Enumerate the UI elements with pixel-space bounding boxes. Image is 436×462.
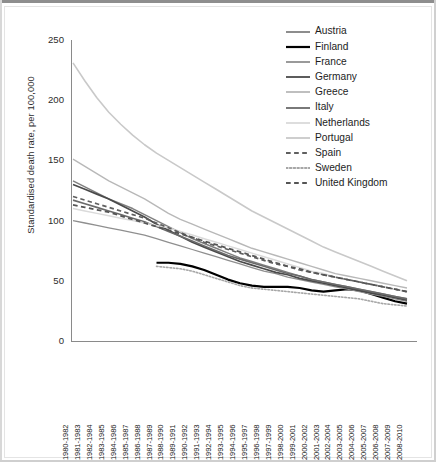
x-tick-label: 1993-1995 <box>216 425 225 460</box>
x-tick-label: 1991-1993 <box>192 425 201 460</box>
legend-line-icon <box>286 86 310 98</box>
x-tick-label: 1995-1997 <box>240 425 249 460</box>
x-tick-label: 1985-1987 <box>121 425 130 460</box>
x-tick-label: 1994-1996 <box>228 425 237 460</box>
chart-page: Standardised death rate, per 100,000 050… <box>0 0 436 462</box>
legend-item[interactable]: Portugal <box>286 130 432 145</box>
legend-line-icon <box>286 26 310 38</box>
legend-line-icon <box>286 71 310 83</box>
x-tick-label: 2006-2008 <box>371 425 380 460</box>
x-tick-label: 1989-1991 <box>168 425 177 460</box>
legend-item[interactable]: Greece <box>286 85 432 100</box>
legend-line-icon <box>286 162 310 174</box>
x-tick-label: 2008-2010 <box>395 425 404 460</box>
legend-item[interactable]: United Kingdom <box>286 176 432 191</box>
x-tick-label: 1982-1984 <box>85 425 94 460</box>
x-tick-label: 2000-2002 <box>300 425 309 460</box>
y-tick-label: 100 <box>32 216 64 226</box>
y-tick-label: 0 <box>32 336 64 346</box>
y-tick-label: 250 <box>32 35 64 45</box>
legend-item[interactable]: Sweden <box>286 161 432 176</box>
legend-line-icon <box>286 56 310 68</box>
y-tick-label: 50 <box>32 276 64 286</box>
chart-legend: AustriaFinlandFranceGermanyGreeceItalyNe… <box>286 24 432 191</box>
x-tick-label: 1988-1990 <box>156 425 165 460</box>
x-tick-label: 1980-1982 <box>61 425 70 460</box>
y-axis-tick-labels: 050100150200250 <box>32 0 64 462</box>
y-tick-label: 150 <box>32 155 64 165</box>
legend-label: Sweden <box>315 163 352 173</box>
legend-label: Austria <box>315 26 347 36</box>
legend-label: Spain <box>315 148 341 158</box>
legend-label: Italy <box>315 102 334 112</box>
legend-item[interactable]: France <box>286 54 432 69</box>
page-frame-left <box>0 0 2 462</box>
x-tick-label: 1999-2001 <box>288 425 297 460</box>
x-tick-label: 2001-2003 <box>312 425 321 460</box>
series-line <box>73 209 407 292</box>
x-tick-label: 2005-2007 <box>359 425 368 460</box>
x-tick-label: 2007-2009 <box>383 425 392 460</box>
x-tick-label: 2004-2006 <box>347 425 356 460</box>
legend-label: Germany <box>315 72 357 82</box>
legend-label: France <box>315 57 347 67</box>
legend-item[interactable]: Spain <box>286 146 432 161</box>
x-tick-label: 1996-1998 <box>252 425 261 460</box>
legend-label: Greece <box>315 87 348 97</box>
legend-item[interactable]: Finland <box>286 39 432 54</box>
legend-line-icon <box>286 177 310 189</box>
legend-label: United Kingdom <box>315 178 388 188</box>
legend-line-icon <box>286 41 310 53</box>
legend-line-icon <box>286 102 310 114</box>
x-tick-label: 1987-1989 <box>145 425 154 460</box>
x-tick-label: 1998-2000 <box>276 425 285 460</box>
x-tick-label: 1983-1985 <box>97 425 106 460</box>
legend-item[interactable]: Germany <box>286 70 432 85</box>
x-tick-label: 1981-1983 <box>73 425 82 460</box>
legend-item[interactable]: Italy <box>286 100 432 115</box>
x-tick-label: 2003-2005 <box>335 425 344 460</box>
legend-line-icon <box>286 117 310 129</box>
legend-label: Finland <box>315 42 348 52</box>
x-tick-label: 1984-1986 <box>109 425 118 460</box>
x-tick-label: 1986-1988 <box>133 425 142 460</box>
legend-label: Portugal <box>315 133 353 143</box>
legend-item[interactable]: Netherlands <box>286 115 432 130</box>
legend-label: Netherlands <box>315 118 370 128</box>
legend-line-icon <box>286 147 310 159</box>
x-axis-tick-labels: 1980-19821981-19831982-19841983-19851984… <box>71 345 417 460</box>
x-tick-label: 1990-1992 <box>180 425 189 460</box>
legend-item[interactable]: Austria <box>286 24 432 39</box>
x-tick-label: 1997-1999 <box>264 425 273 460</box>
page-frame-top <box>0 0 436 3</box>
x-tick-label: 2002-2004 <box>323 425 332 460</box>
legend-line-icon <box>286 132 310 144</box>
x-tick-label: 1992-1994 <box>204 425 213 460</box>
y-tick-label: 200 <box>32 95 64 105</box>
